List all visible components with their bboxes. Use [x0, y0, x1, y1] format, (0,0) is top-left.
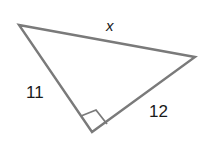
hypotenuse-label: x: [105, 17, 114, 34]
right-leg-label: 12: [149, 102, 168, 121]
left-leg-label: 11: [26, 83, 44, 102]
triangle-diagram: x 11 12: [0, 0, 204, 144]
triangle: [19, 25, 195, 132]
